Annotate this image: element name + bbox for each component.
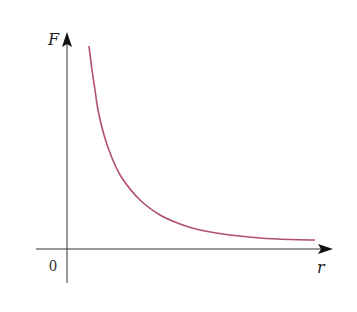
y-axis-label: F (47, 30, 60, 49)
x-axis-label: r (317, 258, 326, 277)
data-curve (89, 46, 315, 240)
origin-label: 0 (49, 257, 57, 274)
chart: F r 0 (0, 0, 357, 312)
